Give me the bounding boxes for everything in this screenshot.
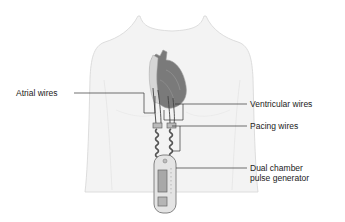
atrial-connector <box>153 123 162 128</box>
label-pacing-wires: Pacing wires <box>250 121 298 131</box>
label-pulse-generator-line2: pulse generator <box>250 173 309 183</box>
label-atrial-wires: Atrial wires <box>16 88 58 98</box>
pulse-generator <box>154 155 176 213</box>
label-pulse-generator-line1: Dual chamber <box>250 163 303 173</box>
diagram-illustration <box>0 0 345 222</box>
pacemaker-diagram: Atrial wires Ventricular wires Pacing wi… <box>0 0 345 222</box>
ventricular-connector <box>167 123 176 128</box>
label-ventricular-wires: Ventricular wires <box>250 99 312 109</box>
